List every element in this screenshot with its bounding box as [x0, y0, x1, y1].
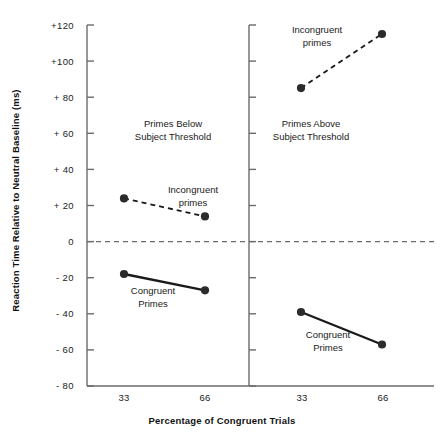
x-tick-label-below-33: 33 [104, 392, 144, 403]
chart-figure: Reaction Time Relative to Neutral Baseli… [0, 0, 444, 438]
data-point-congruent-below-66 [201, 286, 209, 294]
series-label-incongruent-below: Incongruent primes [148, 184, 238, 209]
data-point-congruent-above-66 [378, 340, 386, 348]
data-point-incongruent-below-33 [120, 194, 128, 202]
left-y-axis-ticks [87, 25, 94, 386]
data-point-incongruent-above-33 [297, 84, 305, 92]
panel-title-above-threshold: Primes Above Subject Threshold [246, 118, 376, 143]
x-tick-label-above-66: 66 [363, 392, 403, 403]
data-point-incongruent-below-66 [201, 212, 209, 220]
data-point-incongruent-above-66 [378, 30, 386, 38]
chart-canvas [0, 0, 444, 438]
data-point-congruent-above-33 [297, 308, 305, 316]
panel-title-below-threshold: Primes Below Subject Threshold [118, 118, 228, 143]
series-label-congruent-below: Congruent Primes [108, 285, 198, 310]
right-y-axis-ticks [249, 25, 256, 386]
series-label-incongruent-above: Incongruent primes [272, 24, 362, 49]
data-point-congruent-below-33 [120, 270, 128, 278]
x-tick-label-above-33: 33 [282, 392, 322, 403]
series-label-congruent-above: Congruent Primes [283, 329, 373, 354]
x-tick-label-below-66: 66 [185, 392, 225, 403]
x-axis-title: Percentage of Congruent Trials [0, 415, 444, 426]
